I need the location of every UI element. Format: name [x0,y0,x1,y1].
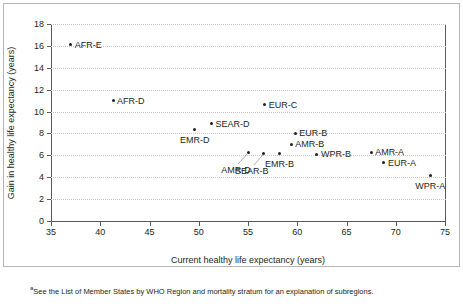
x-tick-mark [297,222,298,226]
x-tick-label: 60 [292,228,302,237]
y-tick-label: 8 [39,129,44,138]
data-label-eur-c: EUR-C [269,100,298,109]
data-point-emr-d [193,128,196,131]
data-point-amr-b [290,143,293,146]
y-tick-mark [47,68,51,69]
data-label-afr-d: AFR-D [117,96,145,105]
data-label-eur-a: EUR-A [388,158,416,167]
data-point-emr-b [278,152,281,155]
footnote-text: See the List of Member States by WHO Reg… [33,287,373,296]
y-tick-label: 2 [39,195,44,204]
y-tick-mark [47,90,51,91]
footnote: aSee the List of Member States by WHO Re… [30,283,374,297]
gridline [51,46,446,47]
x-tick-mark [150,222,151,226]
data-point-afr-d [112,99,115,102]
y-tick-mark [47,112,51,113]
x-tick-label: 55 [243,228,253,237]
x-tick-label: 40 [95,228,105,237]
chart-panel: Gain in healthy life expectancy (years) … [3,3,460,267]
data-point-sear-b [262,152,265,155]
data-point-eur-a [382,161,385,164]
x-tick-mark [347,222,348,226]
data-label-eur-b: EUR-B [299,129,327,138]
data-point-eur-b [294,132,297,135]
x-tick-mark [396,222,397,226]
plot-area: 024681012141618 354045505560657075 AFR-E… [51,24,446,222]
y-tick-mark [47,155,51,156]
x-tick-label: 50 [194,228,204,237]
y-tick-label: 14 [34,63,44,72]
gridline [51,24,446,25]
data-label-emr-d: EMR-D [180,136,210,145]
y-tick-label: 10 [34,107,44,116]
data-label-afr-e: AFR-E [75,40,102,49]
y-tick-mark [47,133,51,134]
y-tick-mark [47,24,51,25]
x-tick-label: 45 [144,228,154,237]
data-point-eur-c [263,103,266,106]
data-label-wpr-a: WPR-A [415,182,445,191]
gridline [51,68,446,69]
data-label-wpr-b: WPR-B [321,150,351,159]
gridline [51,199,446,200]
y-tick-label: 0 [39,217,44,226]
data-label-amr-b: AMR-B [295,140,324,149]
figure: Gain in healthy life expectancy (years) … [0,0,463,306]
data-label-amr-a: AMR-A [375,148,404,157]
y-axis-line [51,24,52,222]
x-tick-mark [199,222,200,226]
y-tick-label: 16 [34,41,44,50]
y-tick-label: 12 [34,85,44,94]
data-point-wpr-a [429,174,432,177]
y-tick-label: 6 [39,151,44,160]
x-tick-label: 65 [341,228,351,237]
x-tick-mark [51,222,52,226]
x-tick-label: 35 [46,228,56,237]
y-tick-label: 4 [39,173,44,182]
data-label-sear-d: SEAR-D [216,119,250,128]
y-axis-title: Gain in healthy life expectancy (years) [6,47,16,200]
data-point-amr-a [370,151,373,154]
plot-right-border [445,24,446,222]
x-tick-label: 75 [440,228,450,237]
gridline [51,90,446,91]
x-tick-label: 70 [391,228,401,237]
y-tick-mark [47,46,51,47]
x-axis-title: Current healthy life expectancy (years) [171,255,325,265]
y-tick-mark [47,199,51,200]
x-tick-mark [248,222,249,226]
data-point-amr-d [247,151,250,154]
gridline [51,177,446,178]
x-tick-mark [100,222,101,226]
x-tick-mark [445,222,446,226]
y-tick-mark [47,177,51,178]
y-tick-label: 18 [34,20,44,29]
data-point-sear-d [210,122,213,125]
data-label-sear-b: SEAR-B [235,167,269,176]
gridline [51,133,446,134]
gridline [51,112,446,113]
data-label-emr-b: EMR-B [265,160,294,169]
